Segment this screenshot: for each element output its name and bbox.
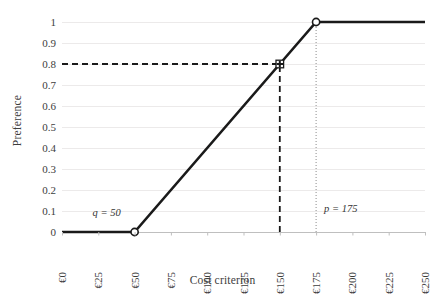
- y-axis-tick-label: 0.9: [24, 38, 56, 49]
- y-axis-tick-label: 0: [24, 227, 56, 238]
- y-axis-tick-label: 0.1: [24, 206, 56, 217]
- y-axis-tick-label: 0.4: [24, 143, 56, 154]
- y-axis-tick-label: 0.5: [24, 122, 56, 133]
- y-axis-tick-label: 1: [24, 17, 56, 28]
- plot-svg: [62, 22, 425, 232]
- preference-function-chart: Preference 00.10.20.30.40.50.60.70.80.91…: [0, 0, 445, 294]
- y-axis-tick-label: 0.3: [24, 164, 56, 175]
- y-axis-tick-label: 0.2: [24, 185, 56, 196]
- y-axis-tick-label: 0.6: [24, 101, 56, 112]
- p-threshold-annotation: p = 175: [324, 203, 357, 214]
- q-threshold-annotation: q = 50: [93, 207, 121, 218]
- y-axis-tick-label: 0.7: [24, 80, 56, 91]
- x-axis-title: Cost criterion: [0, 274, 445, 286]
- gridlines: [62, 23, 425, 233]
- p-threshold-marker: [313, 18, 320, 25]
- y-axis-tick-label: 0.8: [24, 59, 56, 70]
- y-axis-tick-labels: 00.10.20.30.40.50.60.70.80.91: [20, 0, 56, 294]
- plot-area: q = 50 p = 175: [62, 22, 425, 232]
- evaluated-point-marker: [276, 60, 284, 68]
